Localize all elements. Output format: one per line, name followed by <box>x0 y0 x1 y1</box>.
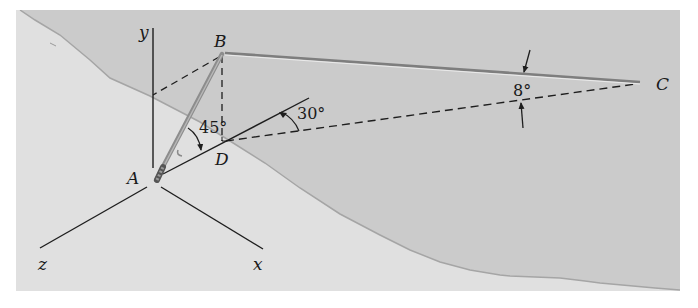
angle-45-label: 45° <box>199 118 227 137</box>
point-A-label: A <box>125 168 139 188</box>
angle-30-label: 30° <box>297 104 325 123</box>
diagram-canvas: y z x B A D C 45° 30° 8° <box>0 0 698 308</box>
point-D-label: D <box>214 149 229 169</box>
y-axis-label: y <box>138 22 149 42</box>
x-axis-label: x <box>253 254 263 274</box>
z-axis-label: z <box>37 254 48 274</box>
angle-8-label: 8° <box>513 81 531 100</box>
point-B-label: B <box>213 31 227 51</box>
statics-figure: y z x B A D C 45° 30° 8° <box>0 0 698 308</box>
point-C-label: C <box>656 74 669 94</box>
